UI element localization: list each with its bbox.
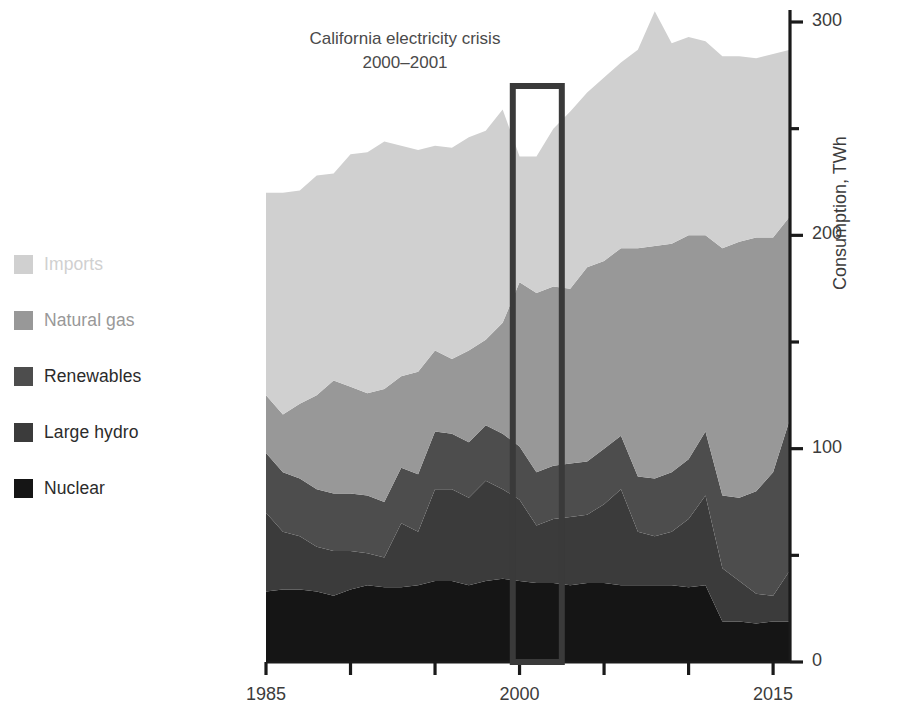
y-axis-label: Consumption, TWh bbox=[830, 136, 851, 290]
plot-area bbox=[0, 0, 905, 726]
x-tick-label: 2000 bbox=[480, 684, 560, 705]
area-series-group bbox=[266, 11, 790, 662]
crisis-annotation-text: California electricity crisis 2000–2001 bbox=[280, 27, 530, 75]
x-tick-label: 2015 bbox=[733, 684, 813, 705]
chart-canvas: Imports Natural gas Renewables Large hyd… bbox=[0, 0, 905, 726]
y-tick-label: 200 bbox=[812, 223, 842, 244]
y-tick-label: 300 bbox=[812, 10, 842, 31]
y-tick-label: 100 bbox=[812, 437, 842, 458]
x-tick-label: 1985 bbox=[226, 684, 306, 705]
y-tick-label: 0 bbox=[812, 650, 822, 671]
stacked-area-svg bbox=[0, 0, 905, 726]
